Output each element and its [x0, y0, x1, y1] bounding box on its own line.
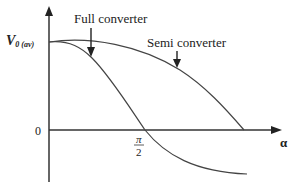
semi-converter-label: Semi converter: [147, 35, 227, 50]
x-axis-label: α: [280, 135, 288, 150]
converter-output-voltage-diagram: Full converter Semi converter V0 (av) 0 …: [0, 0, 303, 188]
semi-converter-curve: [49, 40, 244, 130]
full-converter-label: Full converter: [74, 11, 148, 26]
x-axis-arrow-icon: [271, 126, 282, 134]
origin-label: 0: [35, 124, 41, 138]
y-axis-label: V0 (av): [6, 33, 35, 49]
y-axis-label-subscript: 0 (av): [15, 40, 34, 49]
y-axis-arrow-icon: [45, 6, 53, 16]
pi-over-2-numerator: π: [136, 133, 142, 145]
pi-over-2-denominator: 2: [136, 146, 142, 158]
full-converter-arrow-icon: [87, 47, 95, 57]
full-converter-curve: [49, 42, 247, 174]
